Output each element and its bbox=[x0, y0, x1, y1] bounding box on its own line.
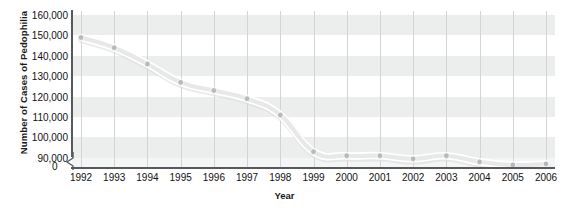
axis-break-icon bbox=[64, 152, 82, 170]
data-point-marker bbox=[78, 35, 84, 41]
x-axis-tick-label: 2001 bbox=[369, 172, 391, 183]
x-axis-tick-label: 1994 bbox=[136, 172, 158, 183]
plot-area bbox=[72, 11, 555, 168]
data-point-marker bbox=[377, 153, 383, 159]
x-axis-tick-label: 1993 bbox=[103, 172, 125, 183]
series-line bbox=[81, 38, 546, 166]
data-point-marker bbox=[111, 45, 117, 51]
data-point-marker bbox=[477, 159, 483, 165]
x-axis-tick-label: 1996 bbox=[203, 172, 225, 183]
data-point-marker bbox=[344, 153, 350, 159]
y-axis-tick-label: 100,000 bbox=[32, 132, 68, 143]
x-axis-tick-label: 2004 bbox=[468, 172, 490, 183]
series-line-shadow bbox=[82, 39, 547, 167]
data-point-marker bbox=[277, 112, 283, 118]
data-point-marker bbox=[244, 96, 250, 102]
data-point-marker bbox=[443, 153, 449, 159]
y-axis-line bbox=[71, 10, 73, 157]
x-axis-tick-label: 2006 bbox=[535, 172, 557, 183]
x-axis-tick-label: 1995 bbox=[170, 172, 192, 183]
x-axis-tick-label: 2005 bbox=[502, 172, 524, 183]
y-axis-tick-label: 130,000 bbox=[32, 71, 68, 82]
y-axis-tick-label: 160,000 bbox=[32, 10, 68, 21]
data-point-marker bbox=[410, 156, 416, 162]
x-axis-tick-label: 2003 bbox=[435, 172, 457, 183]
y-axis-tick-labels: 90,000100,000110,000120,000130,000140,00… bbox=[20, 8, 68, 173]
data-point-marker bbox=[178, 79, 184, 85]
data-point-marker bbox=[145, 61, 151, 67]
series-line-pedophilia-cases bbox=[72, 11, 555, 168]
line-chart: Number of Cases of Pedophilia 90,000100,… bbox=[0, 0, 569, 214]
x-axis-tick-labels: 1992199319941995199619971998199920002001… bbox=[72, 172, 555, 188]
x-axis-line bbox=[71, 167, 555, 169]
data-point-marker bbox=[211, 88, 217, 94]
x-axis-tick-label: 1992 bbox=[70, 172, 92, 183]
x-axis-tick-label: 2000 bbox=[336, 172, 358, 183]
y-axis-tick-label: 110,000 bbox=[33, 112, 68, 123]
x-axis-tick-label: 2002 bbox=[402, 172, 424, 183]
data-point-marker bbox=[311, 149, 317, 155]
series-line-outline bbox=[81, 38, 546, 166]
y-axis-tick-label: 140,000 bbox=[32, 50, 68, 61]
x-axis-title: Year bbox=[0, 190, 569, 201]
y-axis-zero-label: 0 bbox=[52, 161, 58, 172]
x-axis-tick-label: 1997 bbox=[236, 172, 258, 183]
x-axis-tick-label: 1999 bbox=[302, 172, 324, 183]
y-axis-tick-label: 150,000 bbox=[32, 30, 68, 41]
x-axis-tick-label: 1998 bbox=[269, 172, 291, 183]
y-axis-tick-label: 120,000 bbox=[32, 91, 68, 102]
data-point-marker bbox=[543, 161, 549, 167]
